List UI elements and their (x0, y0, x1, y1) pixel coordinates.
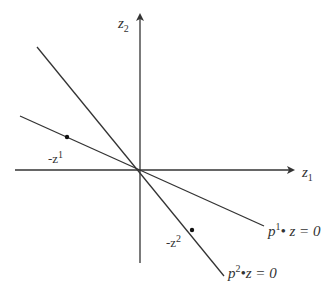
p1-label-rest: • z = 0 (281, 223, 321, 239)
neg-z1-point (65, 135, 69, 139)
neg-z2-point (190, 228, 194, 232)
neg-z2-label-sup: 2 (176, 233, 181, 244)
neg-z1-label: -z1 (48, 150, 63, 165)
p2-hyperplane-label: p2•z = 0 (228, 264, 277, 281)
z2-label-sub: 2 (124, 23, 129, 34)
z2-axis-label: z2 (118, 16, 129, 34)
neg-z1-label-base: -z (48, 151, 58, 166)
p2-label-base: p (228, 265, 236, 281)
z1-axis-label: z1 (302, 165, 313, 183)
z1-label-sub: 1 (308, 172, 313, 183)
p1-label-base: p (268, 223, 276, 239)
neg-z1-label-sup: 1 (58, 149, 63, 160)
neg-z2-label: -z2 (166, 234, 181, 249)
p2-hyperplane-line (37, 47, 224, 276)
p1-hyperplane-line (20, 116, 264, 226)
p1-hyperplane-label: p1• z = 0 (268, 222, 320, 239)
neg-z2-label-base: -z (166, 235, 176, 250)
p2-label-rest: •z = 0 (241, 265, 277, 281)
